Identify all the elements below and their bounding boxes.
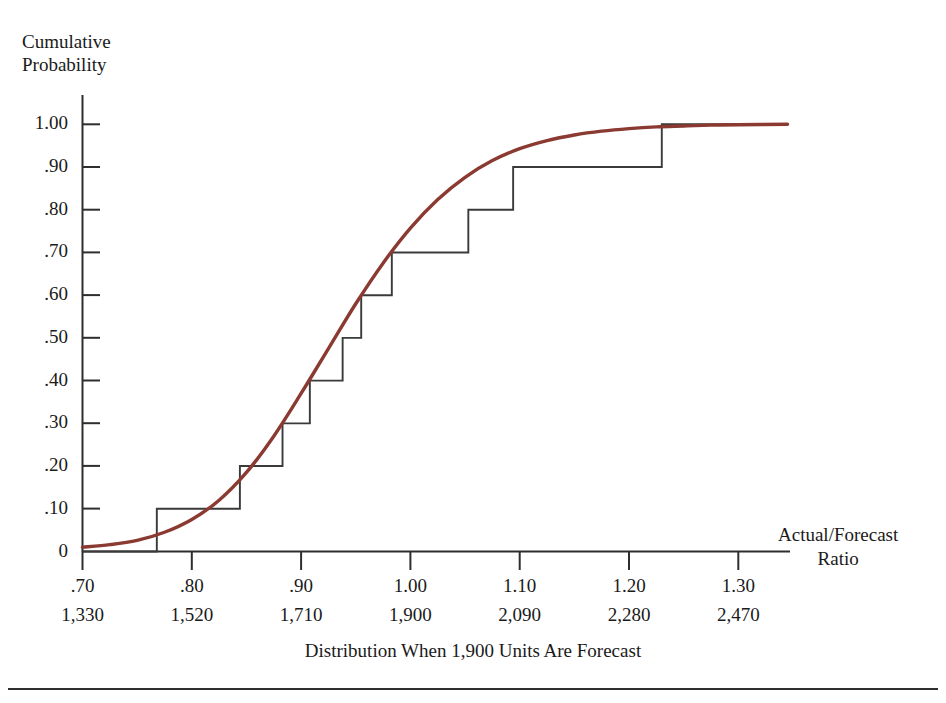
y-axis-ticks (82, 124, 100, 508)
y-tick-label: .20 (4, 454, 68, 476)
y-tick-label: .70 (4, 240, 68, 262)
y-axis-title: Cumulative Probability (22, 30, 111, 76)
y-tick-label: .50 (4, 326, 68, 348)
chart-caption: Distribution When 1,900 Units Are Foreca… (0, 640, 946, 662)
x-tick-label-ratio: .80 (152, 575, 232, 597)
y-tick-label: 1.00 (4, 112, 68, 134)
x-tick-label-ratio: .90 (261, 575, 341, 597)
x-tick-label-units: 1,710 (261, 604, 341, 626)
x-tick-label-units: 1,330 (43, 604, 123, 626)
x-tick-label-units: 2,090 (480, 604, 560, 626)
x-tick-label-units: 1,520 (152, 604, 232, 626)
y-axis-title-line1: Cumulative (22, 30, 111, 53)
x-axis-title-line1: Actual/Forecast (778, 524, 898, 545)
cumulative-probability-figure: Cumulative Probability Actual/Forecast R… (0, 0, 946, 703)
x-tick-label-ratio: 1.30 (698, 575, 778, 597)
y-tick-label: .60 (4, 283, 68, 305)
chart-plot-area (0, 0, 946, 703)
y-tick-label: .30 (4, 411, 68, 433)
x-tick-label-ratio: 1.00 (370, 575, 450, 597)
x-tick-label-units: 1,900 (370, 604, 450, 626)
fitted-cumulative-curve (83, 124, 788, 547)
x-tick-label-ratio: 1.10 (480, 575, 560, 597)
empirical-step-curve (83, 124, 788, 551)
x-axis-ticks (83, 551, 739, 570)
x-tick-label-ratio: .70 (43, 575, 123, 597)
y-tick-label: .80 (4, 198, 68, 220)
x-tick-label-units: 2,470 (698, 604, 778, 626)
y-axis-title-line2: Probability (22, 53, 111, 76)
y-tick-label: 0 (4, 540, 68, 562)
y-tick-label: .40 (4, 369, 68, 391)
x-tick-label-ratio: 1.20 (589, 575, 669, 597)
x-tick-label-units: 2,280 (589, 604, 669, 626)
y-tick-label: .10 (4, 497, 68, 519)
y-tick-label: .90 (4, 155, 68, 177)
page-bottom-rule (8, 688, 938, 690)
x-axis-title: Actual/Forecast Ratio (778, 523, 898, 571)
x-axis-title-line2: Ratio (778, 547, 898, 571)
